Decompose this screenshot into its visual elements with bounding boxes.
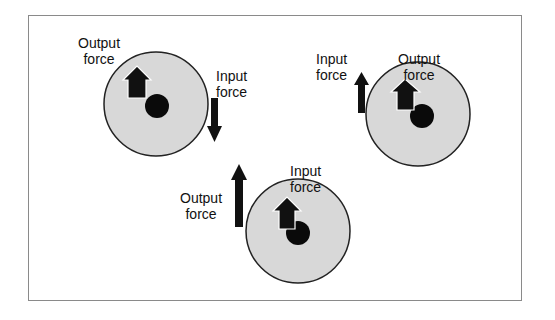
wheel-2-input-label: Input force (316, 51, 347, 83)
wheel-3-output-arrow-icon (231, 164, 247, 227)
wheel-1-input-label: Input force (216, 68, 247, 100)
wheel-2-output-label: Output force (398, 51, 440, 83)
wheel-1-output-label: Output force (78, 35, 120, 67)
wheel-3-output-label: Output force (180, 190, 222, 222)
wheel-1 (104, 52, 222, 156)
wheel-1-axle (145, 94, 169, 118)
wheel-3-input-label: Input force (290, 163, 321, 195)
wheel-1-input-arrow-icon (207, 98, 222, 142)
